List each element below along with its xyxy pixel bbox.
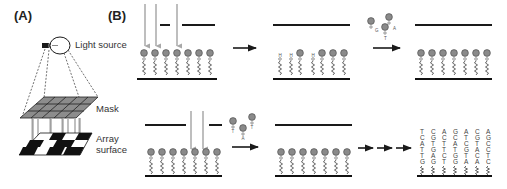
svg-text:G: G	[420, 158, 425, 165]
panel-b-label: (B)	[108, 8, 126, 23]
svg-text:H: H	[279, 53, 282, 58]
bead-row	[141, 50, 214, 75]
svg-text:A: A	[464, 158, 469, 165]
step4-second-exposure	[145, 111, 222, 176]
light-arrows	[191, 111, 203, 149]
svg-text:T: T	[251, 125, 254, 130]
panel-a-label: (A)	[14, 8, 32, 23]
svg-text:A: A	[475, 158, 480, 165]
svg-text:H: H	[290, 53, 293, 58]
svg-text:G: G	[431, 158, 436, 165]
step3-coupled	[415, 25, 492, 79]
svg-text:T: T	[442, 158, 446, 165]
final-oligo-array: T C A T T G C G T G A G A C T T C T G C …	[417, 128, 492, 176]
sequence-column-7: A G C C T C	[486, 128, 491, 165]
svg-text:H: H	[312, 53, 315, 58]
svg-text:T: T	[232, 129, 235, 134]
step2-deprotected: H H H	[273, 25, 350, 79]
nucleotide-monomers-1: G A T	[368, 14, 396, 41]
svg-text:G: G	[453, 158, 458, 165]
nucleotide-monomers-2: T A T	[230, 114, 256, 141]
array-surface	[19, 133, 92, 155]
sequence-column-5: A T C G T A	[464, 128, 469, 165]
panel-a: (A) Light source	[14, 8, 127, 155]
array-label-line1: Array	[96, 133, 119, 144]
light-bulb-icon	[42, 37, 70, 54]
svg-text:C: C	[486, 158, 491, 165]
remaining-beads	[297, 50, 348, 57]
sequence-column-1: T C A T T G	[420, 128, 425, 165]
svg-text:A: A	[242, 136, 245, 141]
svg-text:G: G	[375, 28, 379, 33]
sequence-column-6: C G T A C A	[475, 128, 480, 165]
array-label-line2: surface	[96, 144, 127, 155]
svg-text:T: T	[384, 36, 387, 41]
step1-light-exposure	[137, 4, 217, 79]
light-source-label: Light source	[75, 39, 127, 50]
sequence-column-4: G C A T G G	[453, 128, 458, 165]
sequence-column-3: A C T T C T	[442, 128, 447, 165]
svg-text:A: A	[393, 26, 396, 31]
photolithography-figure: (A) Light source	[0, 0, 507, 189]
mask-grid	[20, 97, 98, 118]
step5-second-coupling	[275, 125, 352, 176]
sequence-column-2: C G T G A G	[431, 128, 436, 165]
mask-label: Mask	[96, 103, 119, 114]
